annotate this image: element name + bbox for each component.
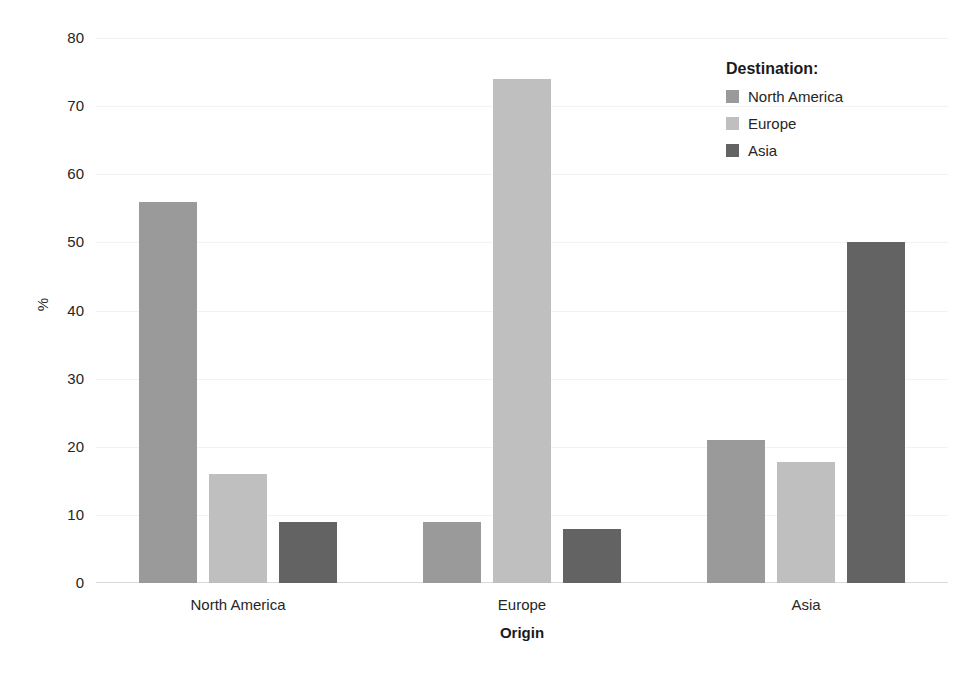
y-axis-tick-label: 80	[40, 31, 84, 45]
legend-swatch-icon	[726, 144, 739, 157]
legend-items: North AmericaEuropeAsia	[726, 89, 843, 158]
legend-item[interactable]: Asia	[726, 143, 843, 158]
legend-item-label: Asia	[748, 143, 777, 158]
y-axis-tick-label: 60	[40, 167, 84, 181]
legend: Destination: North AmericaEuropeAsia	[726, 60, 843, 170]
legend-swatch-icon	[726, 90, 739, 103]
bar[interactable]	[139, 202, 197, 584]
bar[interactable]	[707, 440, 765, 583]
legend-swatch-icon	[726, 117, 739, 130]
bar[interactable]	[493, 79, 551, 583]
legend-item[interactable]: Europe	[726, 116, 843, 131]
bar[interactable]	[563, 529, 621, 584]
y-axis-tick-label: 40	[40, 304, 84, 318]
legend-item-label: Europe	[748, 116, 796, 131]
legend-item[interactable]: North America	[726, 89, 843, 104]
bar[interactable]	[209, 474, 267, 583]
y-axis-tick-label: 20	[40, 440, 84, 454]
legend-item-label: North America	[748, 89, 843, 104]
bar[interactable]	[847, 242, 905, 583]
x-axis-tick-label: Europe	[380, 596, 664, 613]
y-axis-tick-label: 10	[40, 508, 84, 522]
y-axis-tick-label: 0	[40, 576, 84, 590]
bar-chart: % 01020304050607080 North AmericaEuropeA…	[0, 0, 971, 692]
x-axis-tick-label: North America	[96, 596, 380, 613]
x-axis-title: Origin	[96, 624, 948, 641]
y-axis-tick-label: 30	[40, 372, 84, 386]
bar-group	[423, 38, 621, 583]
y-axis-tick-label: 70	[40, 99, 84, 113]
bar-group	[139, 38, 337, 583]
legend-title: Destination:	[726, 60, 843, 78]
bar[interactable]	[777, 462, 835, 583]
y-axis-tick-label: 50	[40, 235, 84, 249]
bar[interactable]	[423, 522, 481, 583]
x-axis-tick-label: Asia	[664, 596, 948, 613]
bar[interactable]	[279, 522, 337, 583]
